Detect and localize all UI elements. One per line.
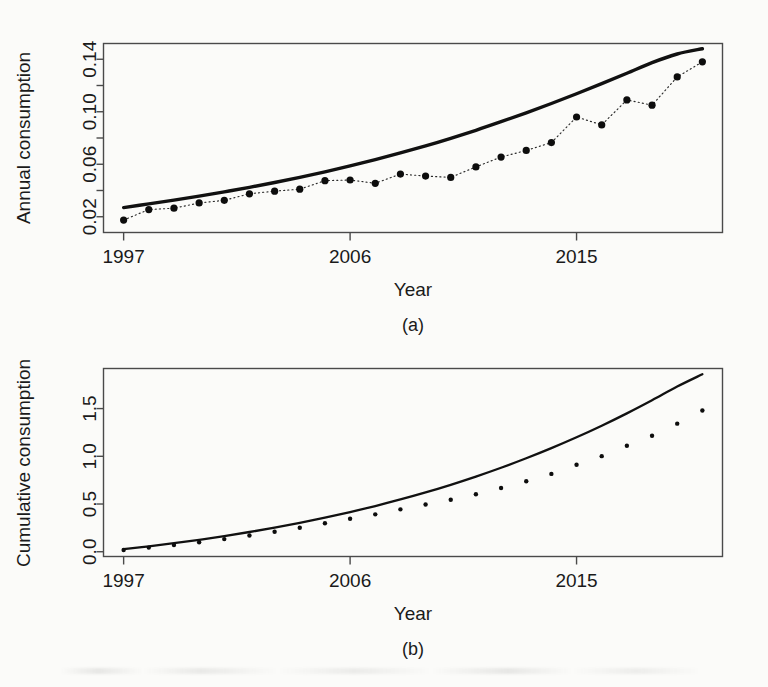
data-point xyxy=(398,507,402,511)
panel-a-plot: 0.020.060.100.14 199720062015 Annual con… xyxy=(0,0,768,340)
data-point xyxy=(222,537,226,541)
data-point xyxy=(625,444,629,448)
data-point xyxy=(196,199,203,206)
data-point xyxy=(172,543,176,547)
data-point xyxy=(675,421,679,425)
x-tick-label: 1997 xyxy=(102,246,144,267)
data-point xyxy=(548,139,555,146)
data-point xyxy=(372,180,379,187)
y-tick-label: 1.5 xyxy=(79,395,100,421)
data-point xyxy=(298,526,302,530)
data-point xyxy=(700,408,704,412)
panel-b-data-points xyxy=(121,408,704,552)
panel-a-observed-dotted-line xyxy=(124,62,703,220)
panel-a-data-points xyxy=(120,58,706,223)
panel-b-labels: 0.00.51.01.5 199720062015 Cumulative con… xyxy=(13,359,598,659)
data-point xyxy=(221,197,228,204)
data-point xyxy=(650,434,654,438)
data-point xyxy=(699,58,706,65)
x-tick-label: 1997 xyxy=(102,570,144,591)
data-point xyxy=(449,498,453,502)
x-tick-label: 2006 xyxy=(329,246,371,267)
data-point xyxy=(348,517,352,521)
y-tick-label: 0.02 xyxy=(79,198,100,235)
panel-a-data xyxy=(120,49,706,224)
panel-b-y-ticks xyxy=(97,409,104,552)
panel-a-y-tick-labels: 0.020.060.100.14 xyxy=(79,40,100,235)
data-point xyxy=(573,113,580,120)
data-point xyxy=(373,512,377,516)
data-point xyxy=(120,216,127,223)
data-point xyxy=(474,492,478,496)
panel-a-y-axis-label: Annual consumption xyxy=(13,52,34,224)
data-point xyxy=(170,205,177,212)
panel-b-x-tick-labels: 199720062015 xyxy=(102,570,597,591)
y-tick-label: 0.5 xyxy=(79,491,100,517)
y-tick-label: 1.0 xyxy=(79,443,100,469)
y-tick-label: 0.10 xyxy=(79,93,100,130)
panel-a-x-tick-labels: 199720062015 xyxy=(102,246,597,267)
x-tick-label: 2015 xyxy=(555,246,597,267)
data-point xyxy=(472,163,479,170)
panel-b: 0.00.51.01.5 199720062015 Cumulative con… xyxy=(0,325,768,687)
data-point xyxy=(574,463,578,467)
data-point xyxy=(674,73,681,80)
panel-a-x-ticks xyxy=(124,233,577,241)
panel-a-x-axis-label: Year xyxy=(394,279,433,300)
data-point xyxy=(296,186,303,193)
data-point xyxy=(524,479,528,483)
data-point xyxy=(422,172,429,179)
data-point xyxy=(271,188,278,195)
data-point xyxy=(246,190,253,197)
panel-a-fitted-curve xyxy=(124,49,703,208)
data-point xyxy=(346,176,353,183)
data-point xyxy=(648,102,655,109)
data-point xyxy=(499,486,503,490)
data-point xyxy=(272,530,276,534)
x-tick-label: 2015 xyxy=(555,570,597,591)
panel-b-fitted-curve xyxy=(124,374,703,549)
data-point xyxy=(598,121,605,128)
panel-b-x-ticks xyxy=(124,557,577,565)
y-tick-label: 0.0 xyxy=(79,539,100,565)
panel-b-axes xyxy=(97,369,723,565)
data-point xyxy=(623,96,630,103)
data-point xyxy=(447,174,454,181)
data-point xyxy=(600,454,604,458)
panel-a-y-ticks xyxy=(97,59,104,217)
data-point xyxy=(321,177,328,184)
data-point xyxy=(247,533,251,537)
panel-b-y-tick-labels: 0.00.51.01.5 xyxy=(79,395,100,565)
panel-b-plot: 0.00.51.01.5 199720062015 Cumulative con… xyxy=(0,325,768,687)
data-point xyxy=(197,540,201,544)
panel-b-x-axis-label: Year xyxy=(394,603,433,624)
panel-b-y-axis-label: Cumulative consumption xyxy=(13,359,34,567)
x-tick-label: 2006 xyxy=(329,570,371,591)
data-point xyxy=(147,545,151,549)
data-point xyxy=(497,153,504,160)
consumption-figure: 0.020.060.100.14 199720062015 Annual con… xyxy=(0,0,768,687)
panel-b-caption: (b) xyxy=(402,639,424,659)
data-point xyxy=(323,521,327,525)
y-tick-label: 0.14 xyxy=(79,40,100,77)
panel-b-data xyxy=(121,374,704,552)
data-point xyxy=(145,206,152,213)
scan-artifact xyxy=(60,668,700,674)
y-tick-label: 0.06 xyxy=(79,146,100,183)
data-point xyxy=(121,548,125,552)
data-point xyxy=(523,147,530,154)
data-point xyxy=(549,472,553,476)
panel-a: 0.020.060.100.14 199720062015 Annual con… xyxy=(0,0,768,340)
data-point xyxy=(423,502,427,506)
data-point xyxy=(397,170,404,177)
